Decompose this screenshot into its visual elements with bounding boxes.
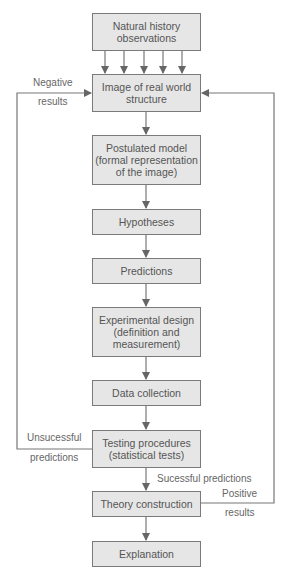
label-positive: Positive <box>222 488 257 500</box>
node-postulated-model: Postulated model (formal representation … <box>92 135 201 185</box>
label-negative: Negative <box>33 77 72 89</box>
label-positive-results: results <box>225 507 254 519</box>
label-unsuccessful: Unsucessful <box>27 432 81 444</box>
node-hypotheses: Hypotheses <box>92 209 201 235</box>
node-natural-history: Natural history observations <box>92 13 201 51</box>
label-negative-results: results <box>38 96 67 108</box>
label-successful-predictions: Sucessful predictions <box>157 473 252 485</box>
node-data-collection: Data collection <box>92 380 201 406</box>
node-predictions: Predictions <box>92 258 201 284</box>
node-image-real-world: Image of real world structure <box>92 74 201 112</box>
node-theory-construction: Theory construction <box>92 491 201 517</box>
node-explanation: Explanation <box>92 541 201 567</box>
node-testing-procedures: Testing procedures (statistical tests) <box>92 430 201 468</box>
node-experimental-design: Experimental design (definition and meas… <box>92 307 201 357</box>
label-unsuccessful-predictions: predictions <box>30 452 78 464</box>
